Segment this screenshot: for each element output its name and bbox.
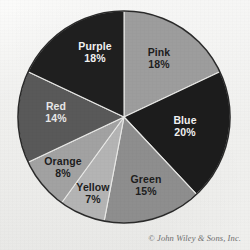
slice-value-blue: 20%	[174, 126, 196, 138]
slice-label-pink: Pink	[148, 46, 171, 58]
slice-label-yellow: Yellow	[76, 181, 110, 193]
copyright-credit: © John Wiley & Sons, Inc.	[148, 233, 241, 243]
slice-value-purple: 18%	[84, 52, 106, 64]
slice-value-orange: 8%	[55, 167, 71, 179]
slice-label-blue: Blue	[173, 114, 196, 126]
pie-chart-page: Pink18%Blue20%Green15%Yellow7%Orange8%Re…	[0, 0, 250, 250]
slice-label-green: Green	[131, 173, 162, 185]
pie-chart: Pink18%Blue20%Green15%Yellow7%Orange8%Re…	[0, 0, 250, 250]
slice-label-orange: Orange	[44, 155, 81, 167]
slice-value-pink: 18%	[148, 58, 170, 70]
slice-value-red: 14%	[45, 112, 67, 124]
slice-label-red: Red	[46, 100, 66, 112]
slice-value-green: 15%	[135, 185, 157, 197]
slice-value-yellow: 7%	[85, 193, 101, 205]
slice-label-purple: Purple	[78, 40, 111, 52]
